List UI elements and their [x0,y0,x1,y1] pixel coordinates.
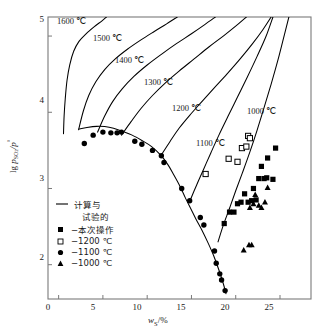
x-tick-label: 25 [261,302,277,312]
x-tick-label: 5 [85,302,101,312]
x-tick-label: 0 [40,302,56,312]
filled-triangle-icon [55,258,67,268]
figure-root: 5 4 3 2 0 5 10 15 20 25 wS/% lg pSO2/p° … [0,0,328,335]
legend-label-this-operation: −本次操作 [71,223,114,235]
y-axis-title-div: /p [8,142,18,149]
y-tick-label: 4 [30,95,44,105]
legend-label-calculated-line2: 试验的 [82,210,109,222]
y-axis-title-subscript: SO [13,152,19,160]
legend-item-1000: −1000 ℃ [55,258,114,268]
legend-item-1200: −1200 ℃ [55,236,114,246]
legend-item-1100: −1100 ℃ [55,247,114,257]
curve-label-1000: 1000 ℃ [247,106,276,116]
legend-item-this-operation: −本次操作 [55,223,114,235]
curve-label-1300: 1300 ℃ [144,77,173,87]
legend-label-1100: −1100 ℃ [71,247,112,257]
y-axis-title-p: p [8,159,18,164]
open-square-icon [55,236,67,246]
y-axis-title-subscript2: 2 [14,149,19,152]
y-axis-title-lg: lg [8,164,18,173]
x-axis-title: wS/% [148,315,168,327]
legend-label-1000: −1000 ℃ [71,258,112,268]
x-axis-title-unit: /% [158,315,168,325]
legend-label-calculated: 计算与 试验的 [74,198,109,222]
curve-label-1200: 1200 ℃ [172,103,201,113]
y-axis-title-superscript: ° [7,140,13,142]
chart-legend: 计算与 试验的 −本次操作 −1200 ℃ −1100 ℃ −1000 ℃ [55,198,114,268]
curve-label-1600: 1600 ℃ [57,16,86,26]
y-tick-label: 3 [30,173,44,183]
x-tick-label: 20 [217,302,233,312]
legend-label-calculated-line1: 计算与 [74,198,109,210]
y-tick-label: 2 [30,252,44,262]
curve-label-1100: 1100 ℃ [196,138,225,148]
chart-canvas [0,0,328,335]
y-tick-label: 5 [30,14,44,24]
x-tick-label: 15 [173,302,189,312]
x-tick-label: 10 [129,302,145,312]
y-axis-title: lg pSO2/p° [7,125,20,187]
legend-item-calculated: 计算与 试验的 [55,198,114,222]
filled-square-icon [55,224,67,234]
line-swatch-icon [55,198,69,210]
filled-circle-icon [55,247,67,257]
legend-label-1200: −1200 ℃ [71,236,112,246]
curve-label-1500: 1500 ℃ [93,33,122,43]
curve-label-1400: 1400 ℃ [115,55,144,65]
